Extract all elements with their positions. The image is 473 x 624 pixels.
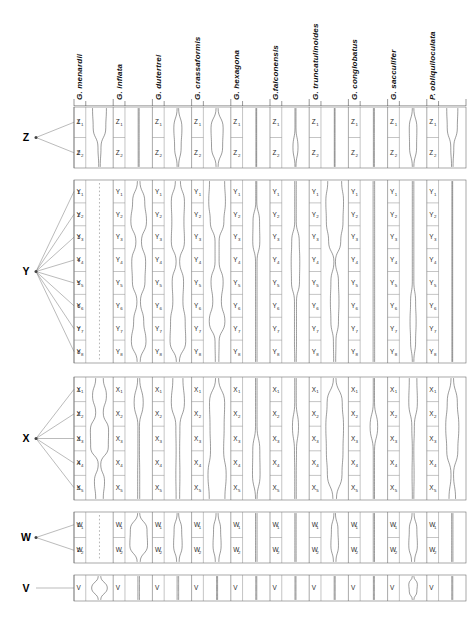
subzone-label: Z (273, 149, 277, 156)
taxon-column-falconensis[interactable]: W1W2 (270, 512, 296, 563)
subzone-subscript: 2 (434, 153, 437, 158)
taxon-column-inflata[interactable]: Z1Z2 (113, 107, 139, 168)
leader-line (36, 439, 74, 488)
taxon-column-menardii[interactable]: W1W2 (74, 512, 99, 563)
taxon-column-sacculifer[interactable]: X1X2X3X4X5 (388, 377, 418, 500)
column-header-conglobatus: G. conglobatus (350, 39, 359, 100)
zone-letter-Z: Z (23, 131, 30, 143)
column-header-label: G. dutertrei (154, 54, 163, 100)
taxon-column-falconensis[interactable]: X1X2X3X4X5 (270, 377, 299, 500)
taxon-column-truncatulinoides[interactable]: V (309, 575, 335, 601)
taxon-column-inflata[interactable]: Y1Y2Y3Y4Y5Y6Y7Y8 (113, 180, 146, 363)
subzone-subscript: 8 (356, 352, 359, 357)
taxon-column-obliquiloculata[interactable]: Z1Z2 (427, 107, 458, 168)
row-number-cells: 12345 (77, 386, 81, 491)
taxon-column-crassaformis[interactable]: Y1Y2Y3Y4Y5Y6Y7Y8 (192, 180, 226, 363)
subzone-subscript: 7 (160, 329, 163, 334)
zone-label-cells: Z1Z2 (192, 118, 204, 157)
abundance-trace (174, 514, 183, 562)
taxon-column-hexagona[interactable]: W1W2 (231, 512, 257, 563)
taxon-column-truncatulinoides[interactable]: X1X2X3X4X5 (309, 377, 343, 500)
subzone-subscript: 8 (199, 352, 202, 357)
abundance-trace (131, 182, 147, 362)
column-header-label: G. crassaformis (193, 36, 202, 100)
abundance-trace (138, 109, 139, 167)
taxon-column-sacculifer[interactable]: V (388, 575, 418, 601)
taxon-column-hexagona[interactable]: Y1Y2Y3Y4Y5Y6Y7Y8 (231, 180, 260, 363)
taxon-column-obliquiloculata[interactable]: Y1Y2Y3Y4Y5Y6Y7Y8 (427, 180, 453, 363)
taxon-column-inflata[interactable]: X1X2X3X4X5 (113, 377, 143, 500)
subzone-label: Z (273, 118, 277, 125)
taxon-column-obliquiloculata[interactable]: V (427, 575, 453, 601)
taxon-column-dutertrei[interactable]: X1X2X3X4X5 (152, 377, 184, 500)
taxon-column-inflata[interactable]: W1W2 (113, 512, 147, 563)
subzone-subscript: 1 (120, 389, 123, 394)
leader-line (36, 138, 74, 153)
leader-line (36, 538, 74, 551)
taxon-column-crassaformis[interactable]: V (192, 575, 218, 601)
taxon-column-obliquiloculata[interactable]: W1W2 (427, 512, 453, 563)
taxon-column-falconensis[interactable]: V (270, 575, 296, 601)
abundance-trace (170, 182, 186, 362)
subzone-subscript: 1 (277, 192, 280, 197)
taxon-column-truncatulinoides[interactable]: W1W2 (309, 512, 338, 563)
taxon-column-menardii[interactable]: Y1Y2Y3Y4Y5Y6Y7Y8 (74, 180, 99, 363)
taxon-column-dutertrei[interactable]: Z1Z2 (152, 107, 182, 168)
subzone-subscript: 5 (316, 488, 319, 493)
abundance-plot-hexagona (256, 577, 257, 600)
taxon-column-conglobatus[interactable]: Y1Y2Y3Y4Y5Y6Y7Y8 (348, 180, 374, 363)
zone-block-Y: YY1Y2Y3Y4Y5Y6Y7Y8Y1Y2Y3Y4Y5Y6Y7Y8Y1Y2Y3Y… (22, 180, 466, 363)
subzone-subscript: 6 (81, 306, 84, 311)
abundance-plot-obliquiloculata (446, 379, 459, 499)
subzone-label: Z (429, 118, 433, 125)
taxon-column-falconensis[interactable]: Y1Y2Y3Y4Y5Y6Y7Y8 (270, 180, 300, 363)
taxon-column-falconensis[interactable]: Z1Z2 (270, 107, 298, 168)
taxon-column-sacculifer[interactable]: Y1Y2Y3Y4Y5Y6Y7Y8 (388, 180, 417, 363)
subzone-subscript: 8 (395, 352, 398, 357)
taxon-column-conglobatus[interactable]: V (348, 575, 374, 601)
subzone-subscript: 5 (395, 283, 398, 288)
abundance-plot-inflata (138, 577, 140, 600)
subzone-subscript: 7 (395, 329, 398, 334)
row-number: 1 (77, 521, 81, 528)
subzone-subscript: 7 (316, 329, 319, 334)
row-number: 3 (77, 233, 81, 240)
taxon-column-menardii[interactable]: Z1Z2 (74, 107, 106, 168)
taxon-column-crassaformis[interactable]: Z1Z2 (192, 107, 224, 168)
taxon-column-dutertrei[interactable]: V (152, 575, 178, 601)
taxon-column-conglobatus[interactable]: W1W2 (348, 512, 374, 563)
subzone-subscript: 4 (356, 463, 359, 468)
abundance-trace (446, 379, 459, 499)
taxon-column-dutertrei[interactable]: W1W2 (152, 512, 182, 563)
abundance-plot-truncatulinoides (334, 577, 335, 600)
taxon-column-crassaformis[interactable]: W1W2 (192, 512, 222, 563)
subzone-label: V (233, 584, 238, 591)
taxon-column-truncatulinoides[interactable]: Y1Y2Y3Y4Y5Y6Y7Y8 (309, 180, 343, 363)
taxon-column-dutertrei[interactable]: Y1Y2Y3Y4Y5Y6Y7Y8 (152, 180, 185, 363)
subzone-subscript: 7 (81, 329, 84, 334)
taxon-column-hexagona[interactable]: Z1Z2 (231, 107, 257, 168)
subzone-subscript: 2 (199, 153, 202, 158)
abundance-trace (90, 379, 108, 499)
taxon-column-conglobatus[interactable]: Z1Z2 (348, 107, 374, 168)
subzone-subscript: 1 (160, 192, 163, 197)
zone-label-cells: Y1Y2Y3Y4Y5Y6Y7Y8 (388, 188, 400, 357)
taxon-column-inflata[interactable]: V (113, 575, 139, 601)
taxon-column-crassaformis[interactable]: X1X2X3X4X5 (192, 377, 227, 500)
subzone-label: V (116, 584, 121, 591)
subzone-subscript: 2 (238, 414, 241, 419)
zone-label-cells: W1W2 (309, 521, 321, 555)
abundance-trace (209, 182, 226, 362)
subzone-subscript: 8 (316, 352, 319, 357)
taxon-column-hexagona[interactable]: X1X2X3X4X5 (231, 377, 260, 500)
column-header-label: G. truncatulinoides (311, 23, 320, 100)
taxon-column-conglobatus[interactable]: X1X2X3X4X5 (348, 377, 377, 500)
taxon-column-hexagona[interactable]: V (231, 575, 257, 601)
taxon-column-obliquiloculata[interactable]: X1X2X3X4X5 (427, 377, 459, 500)
abundance-plot-truncatulinoides (326, 182, 344, 362)
taxon-column-truncatulinoides[interactable]: Z1Z2 (309, 107, 335, 168)
taxon-column-menardii[interactable]: V (74, 575, 107, 601)
taxon-column-sacculifer[interactable]: Z1Z2 (388, 107, 417, 168)
taxon-column-sacculifer[interactable]: W1W2 (388, 512, 418, 563)
row-number: 7 (77, 325, 81, 332)
